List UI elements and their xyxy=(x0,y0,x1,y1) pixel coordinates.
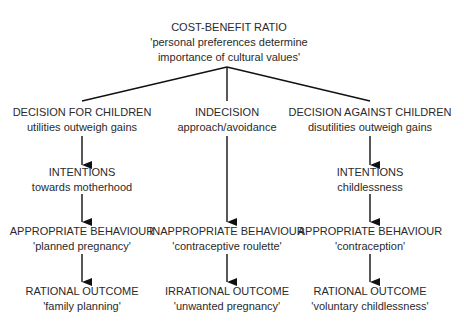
node-title: INTENTIONS xyxy=(337,165,404,180)
root-line2: importance of cultural values' xyxy=(150,50,307,65)
decision-against-children-node: DECISION AGAINST CHILDREN disutilities o… xyxy=(289,105,452,135)
node-subtitle: 'voluntary childlessness' xyxy=(311,299,428,314)
node-title: APPROPRIATE BEHAVIOUR xyxy=(10,224,154,239)
node-title: DECISION AGAINST CHILDREN xyxy=(289,105,452,120)
intentions-motherhood-node: INTENTIONS towards motherhood xyxy=(32,165,132,195)
rational-outcome-right-node: RATIONAL OUTCOME 'voluntary childlessnes… xyxy=(311,284,428,314)
node-title: DECISION FOR CHILDREN xyxy=(13,105,152,120)
root-title: COST-BENEFIT RATIO xyxy=(150,20,307,35)
node-title: APPROPRIATE BEHAVIOUR xyxy=(298,224,442,239)
decision-for-children-node: DECISION FOR CHILDREN utilities outweigh… xyxy=(13,105,152,135)
branch-left-line xyxy=(82,67,227,101)
appropriate-behaviour-right-node: APPROPRIATE BEHAVIOUR 'contraception' xyxy=(298,224,442,254)
node-subtitle: disutilities outweigh gains xyxy=(289,120,452,135)
node-subtitle: towards motherhood xyxy=(32,180,132,195)
node-title: RATIONAL OUTCOME xyxy=(25,284,138,299)
node-title: IRRATIONAL OUTCOME xyxy=(165,284,289,299)
node-subtitle: 'contraception' xyxy=(298,239,442,254)
rational-outcome-left-node: RATIONAL OUTCOME 'family planning' xyxy=(25,284,138,314)
intentions-childlessness-node: INTENTIONS childlessness xyxy=(337,165,404,195)
node-subtitle: approach/avoidance xyxy=(177,120,276,135)
irrational-outcome-node: IRRATIONAL OUTCOME 'unwanted pregnancy' xyxy=(165,284,289,314)
node-title: INDECISION xyxy=(177,105,276,120)
node-title: INTENTIONS xyxy=(32,165,132,180)
node-title: INAPPROPRIATE BEHAVIOUR xyxy=(149,224,304,239)
branch-right-line xyxy=(227,67,370,101)
node-subtitle: utilities outweigh gains xyxy=(13,120,152,135)
indecision-node: INDECISION approach/avoidance xyxy=(177,105,276,135)
node-title: RATIONAL OUTCOME xyxy=(311,284,428,299)
appropriate-behaviour-left-node: APPROPRIATE BEHAVIOUR 'planned pregnancy… xyxy=(10,224,154,254)
inappropriate-behaviour-node: INAPPROPRIATE BEHAVIOUR 'contraceptive r… xyxy=(149,224,304,254)
root-line1: 'personal preferences determine xyxy=(150,35,307,50)
node-subtitle: 'planned pregnancy' xyxy=(10,239,154,254)
node-subtitle: 'contraceptive roulette' xyxy=(149,239,304,254)
node-subtitle: childlessness xyxy=(337,180,404,195)
root-node: COST-BENEFIT RATIO 'personal preferences… xyxy=(150,20,307,65)
node-subtitle: 'unwanted pregnancy' xyxy=(165,299,289,314)
node-subtitle: 'family planning' xyxy=(25,299,138,314)
